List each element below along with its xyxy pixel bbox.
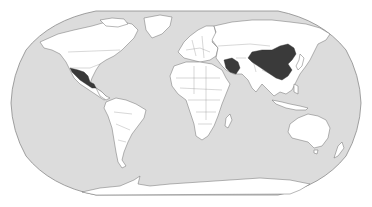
philippines <box>294 84 298 94</box>
world-map <box>0 0 372 207</box>
tasmania <box>314 150 318 154</box>
